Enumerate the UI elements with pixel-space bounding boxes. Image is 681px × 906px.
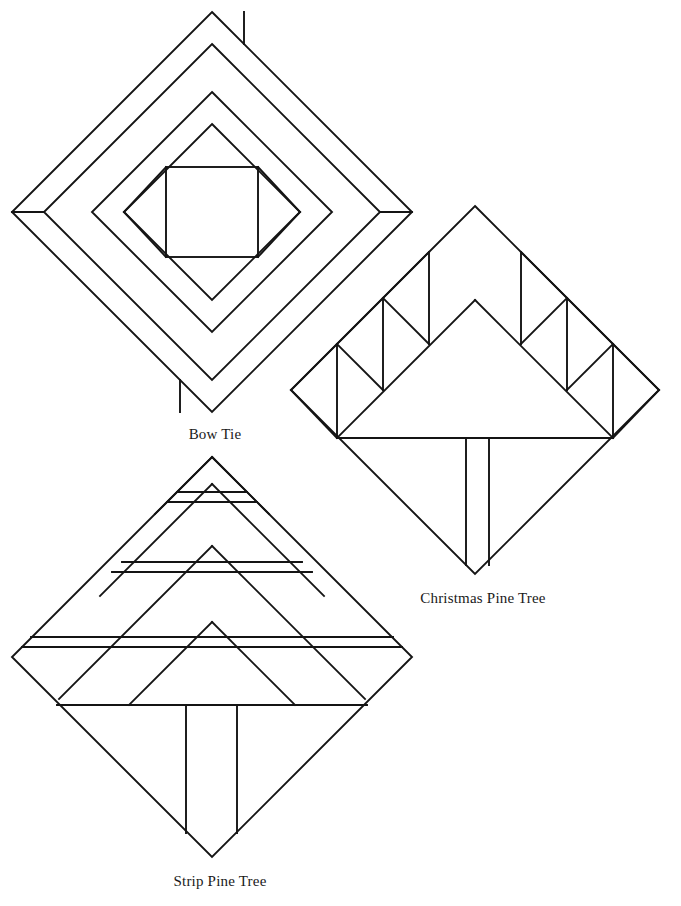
strip-outer-diamond bbox=[12, 457, 412, 857]
block-christmas-pine-tree bbox=[291, 206, 659, 574]
strip-tier1-left-edge bbox=[155, 457, 212, 514]
christmas-left-tooth-3-hyp bbox=[291, 390, 337, 438]
christmas-right-band-upper bbox=[521, 252, 659, 390]
label-christmas-pine-tree: Christmas Pine Tree bbox=[385, 589, 581, 607]
block-bow-tie bbox=[12, 12, 412, 412]
christmas-right-tooth-1-hyp bbox=[521, 298, 567, 344]
strip-tier1-right-edge bbox=[212, 457, 269, 514]
strip-tier3-left-edge bbox=[59, 546, 212, 699]
block-strip-pine-tree bbox=[12, 457, 412, 857]
christmas-outer-diamond bbox=[291, 206, 659, 574]
christmas-left-tooth-1-hyp bbox=[383, 298, 429, 344]
quilt-blocks-illustration bbox=[0, 0, 681, 906]
label-bow-tie: Bow Tie bbox=[145, 425, 285, 443]
strip-tier4-left-edge bbox=[129, 622, 212, 705]
bow-tie-center-square bbox=[166, 167, 258, 257]
strip-tier4-right-edge bbox=[212, 622, 295, 705]
christmas-left-band-upper bbox=[291, 252, 429, 390]
christmas-right-tooth-3-hyp bbox=[613, 390, 659, 438]
label-strip-pine-tree: Strip Pine Tree bbox=[135, 872, 305, 890]
strip-tier2-left-edge bbox=[100, 484, 212, 596]
strip-tier2-right-edge bbox=[212, 484, 324, 596]
page-canvas: Bow Tie Christmas Pine Tree Strip Pine T… bbox=[0, 0, 681, 906]
strip-tier3-right-edge bbox=[212, 546, 365, 699]
bow-tie-frame-4 bbox=[124, 124, 300, 300]
christmas-left-tooth-2-hyp bbox=[337, 344, 383, 390]
christmas-right-tooth-2-hyp bbox=[567, 344, 613, 390]
bow-tie-frame-2 bbox=[44, 44, 380, 380]
